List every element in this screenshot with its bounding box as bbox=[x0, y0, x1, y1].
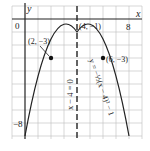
x-axis-label: x bbox=[135, 8, 141, 19]
parabola-graph: y x 0 8 −8 (4, −1) (2, −3) (6, −3) x − 4… bbox=[0, 0, 150, 151]
origin-label: 0 bbox=[15, 21, 20, 31]
y-tick-neg8: −8 bbox=[13, 119, 23, 129]
point-right-label: (6, −3) bbox=[106, 55, 128, 64]
vertex-label: (4, −1) bbox=[79, 22, 101, 31]
point-left-label: (2, −3) bbox=[28, 37, 50, 46]
x-tick-8: 8 bbox=[126, 22, 131, 32]
curve-equation-label: y = −½(x − 4)² − 1 bbox=[87, 58, 116, 117]
y-axis-label: y bbox=[26, 3, 32, 14]
point-left bbox=[49, 56, 53, 60]
point-right bbox=[101, 56, 105, 60]
axis-equation-label: x − 4 = 0 bbox=[65, 79, 75, 110]
